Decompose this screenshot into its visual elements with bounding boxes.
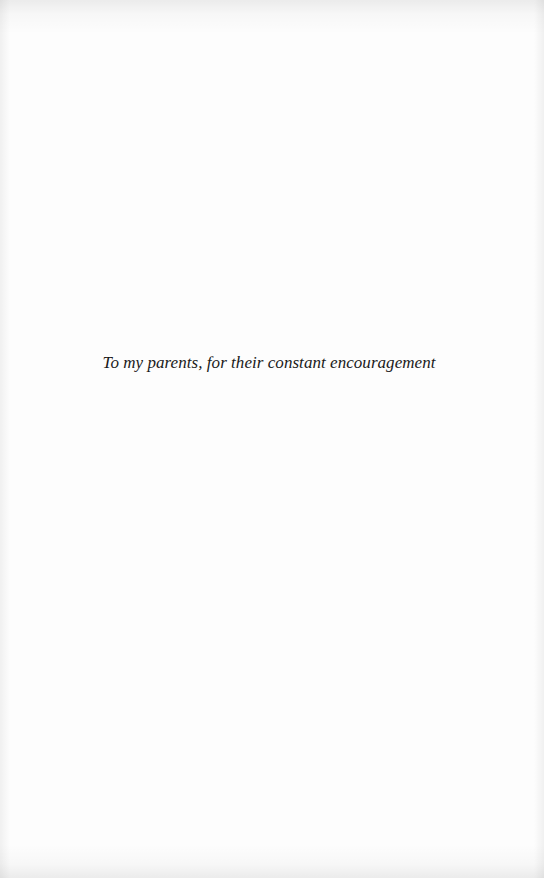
dedication-page: To my parents, for their constant encour…: [0, 0, 544, 878]
dedication-text: To my parents, for their constant encour…: [0, 353, 544, 373]
